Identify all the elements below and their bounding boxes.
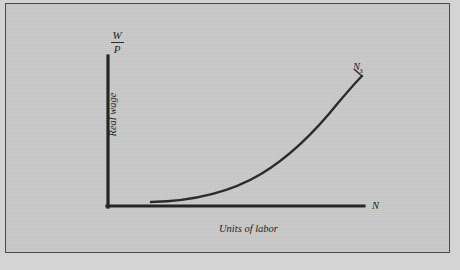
figure-frame: W P Real wage Units of labor N Ns [5, 3, 450, 253]
curve-label-base: N [353, 61, 360, 72]
chart-svg [6, 4, 450, 253]
curve-label-subscript: s [360, 66, 363, 75]
plot-area: W P Real wage Units of labor N Ns [6, 4, 449, 252]
y-axis-title: Real wage [107, 65, 118, 165]
labor-supply-curve [151, 76, 362, 202]
x-axis-symbol: N [372, 200, 379, 211]
curve-label: Ns [353, 61, 363, 75]
y-axis-denominator: P [104, 44, 130, 55]
y-axis-symbol: W P [104, 30, 130, 55]
y-axis-numerator: W [104, 30, 130, 41]
scanned-page: W P Real wage Units of labor N Ns [0, 0, 460, 270]
x-axis-title: Units of labor [219, 223, 278, 234]
